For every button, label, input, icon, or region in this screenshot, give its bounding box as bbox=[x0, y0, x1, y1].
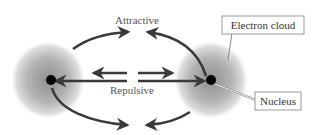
repulsive-label: Repulsive bbox=[110, 84, 154, 96]
electron-cloud-label: Electron cloud bbox=[231, 19, 296, 31]
left-nucleus bbox=[46, 75, 56, 85]
attractive-label: Attractive bbox=[115, 14, 159, 26]
atomic-interaction-diagram: Attractive Repulsive Electron cloud Nucl… bbox=[0, 0, 319, 135]
attractive-arrow-top-left bbox=[73, 32, 128, 49]
nucleus-label: Nucleus bbox=[260, 95, 296, 107]
attractive-arrow-bottom-right bbox=[147, 112, 190, 125]
right-nucleus bbox=[206, 75, 216, 85]
